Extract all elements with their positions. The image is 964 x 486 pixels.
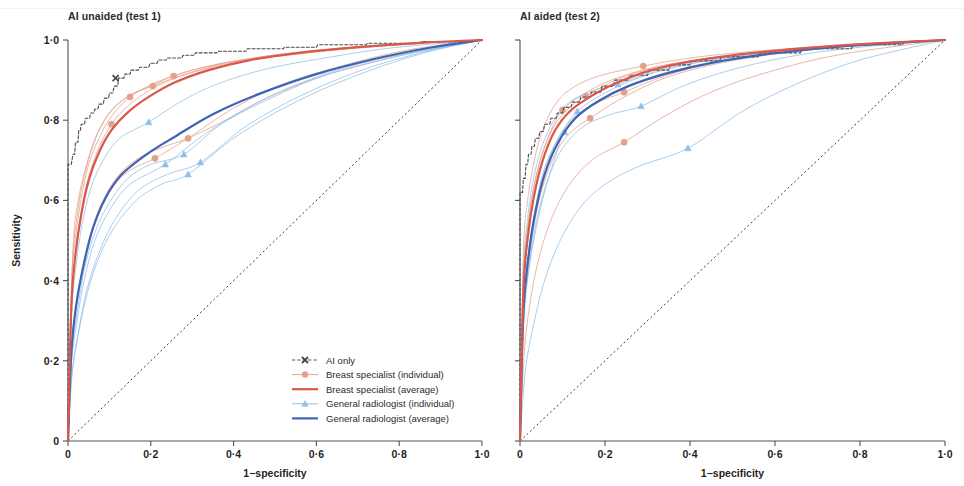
x-tick-label: 0·6 bbox=[767, 448, 782, 460]
legend-label: Breast specialist (average) bbox=[326, 384, 438, 395]
legend-item[interactable]: General radiologist (average) bbox=[292, 413, 449, 424]
x-axis-label: 1−specificity bbox=[701, 467, 764, 479]
marker-circle bbox=[170, 73, 176, 79]
legend-item[interactable]: General radiologist (individual) bbox=[292, 398, 454, 409]
x-tick-label: 0 bbox=[517, 448, 523, 460]
legend-label: General radiologist (average) bbox=[326, 413, 449, 424]
legend: AI onlyBreast specialist (individual)Bre… bbox=[292, 355, 454, 424]
x-tick-label: 0·2 bbox=[597, 448, 612, 460]
marker-triangle bbox=[638, 103, 644, 109]
x-tick-label: 0·2 bbox=[143, 448, 158, 460]
x-tick-label: 0 bbox=[65, 448, 71, 460]
legend-item[interactable]: Breast specialist (average) bbox=[292, 384, 438, 395]
legend-label: General radiologist (individual) bbox=[326, 398, 454, 409]
marker-triangle bbox=[685, 145, 691, 151]
marker-triangle bbox=[162, 161, 168, 167]
y-tick-label: 0·2 bbox=[44, 355, 59, 367]
legend-marker-circle bbox=[302, 372, 308, 378]
y-tick-label: 0·8 bbox=[44, 114, 59, 126]
marker-triangle bbox=[197, 159, 203, 165]
x-tick-label: 1·0 bbox=[937, 448, 952, 460]
x-tick-label: 1·0 bbox=[474, 448, 489, 460]
legend-label: Breast specialist (individual) bbox=[326, 369, 444, 380]
legend-item[interactable]: AI only bbox=[292, 355, 355, 366]
x-tick-label: 0·4 bbox=[682, 448, 697, 460]
marker-circle bbox=[587, 115, 593, 121]
x-tick-label: 0·8 bbox=[392, 448, 407, 460]
roc-figure: AI unaided (test 1) AI aided (test 2) 00… bbox=[0, 0, 964, 486]
x-tick-label: 0·6 bbox=[309, 448, 324, 460]
legend-label: AI only bbox=[326, 355, 355, 366]
marker-triangle bbox=[146, 119, 152, 125]
roc-plot-svg: 00·20·40·60·81·000·20·40·60·81·01−specif… bbox=[0, 0, 964, 486]
x-axis-label: 1−specificity bbox=[243, 467, 306, 479]
marker-circle bbox=[621, 139, 627, 145]
marker-triangle bbox=[185, 171, 191, 177]
y-tick-label: 1·0 bbox=[44, 34, 59, 46]
legend-item[interactable]: Breast specialist (individual) bbox=[292, 369, 444, 380]
marker-circle bbox=[640, 63, 646, 69]
marker-x bbox=[113, 75, 119, 81]
y-tick-label: 0 bbox=[53, 435, 59, 447]
y-tick-label: 0·6 bbox=[44, 194, 59, 206]
panel-right: 00·20·40·60·81·01−specificity bbox=[515, 40, 953, 479]
y-axis-label: Sensitivity bbox=[10, 214, 22, 267]
y-tick-label: 0·4 bbox=[44, 275, 59, 287]
x-tick-label: 0·8 bbox=[852, 448, 867, 460]
x-tick-label: 0·4 bbox=[226, 448, 241, 460]
marker-circle bbox=[152, 155, 158, 161]
